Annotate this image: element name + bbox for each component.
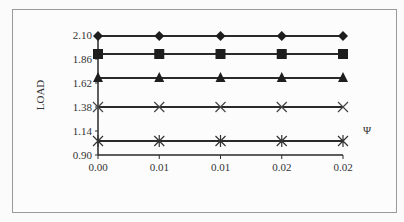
diamond-marker — [154, 31, 164, 41]
triangle-marker — [216, 72, 226, 82]
square-marker — [93, 49, 103, 59]
triangle-marker — [277, 72, 287, 82]
diamond-marker — [93, 31, 103, 41]
x-tick-label: 0.02 — [333, 161, 352, 173]
triangle-marker — [93, 72, 103, 82]
y-tick-label: 1.14 — [73, 125, 93, 137]
square-marker — [277, 49, 287, 59]
line-chart: 2.101.861.621.381.140.900.000.010.010.02… — [0, 0, 404, 222]
y-tick-label: 0.90 — [73, 149, 93, 161]
square-marker — [338, 49, 348, 59]
y-axis-title: LOAD — [34, 80, 46, 111]
square-marker — [216, 49, 226, 59]
x-tick-label: 0.02 — [272, 161, 291, 173]
diamond-marker — [216, 31, 226, 41]
diamond-marker — [338, 31, 348, 41]
x-tick-label: 0.01 — [211, 161, 230, 173]
y-tick-label: 2.10 — [73, 29, 93, 41]
x-tick-label: 0.00 — [88, 161, 108, 173]
x-axis-title: Ψ — [363, 124, 372, 136]
y-tick-label: 1.38 — [73, 101, 93, 113]
triangle-marker — [338, 72, 348, 82]
triangle-marker — [154, 72, 164, 82]
diamond-marker — [277, 31, 287, 41]
y-tick-label: 1.86 — [73, 53, 93, 65]
x-tick-label: 0.01 — [150, 161, 169, 173]
square-marker — [154, 49, 164, 59]
y-tick-label: 1.62 — [73, 77, 92, 89]
